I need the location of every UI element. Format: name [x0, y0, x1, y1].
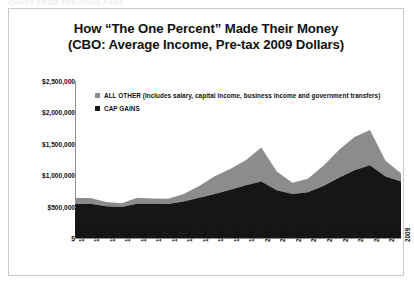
x-axis-tick-label: 2006: [357, 228, 364, 242]
x-axis-tick-label: 2004: [326, 228, 333, 242]
page-bleed-text: CHART FROM PREVIOUS PAGE: [8, 0, 228, 6]
x-axis-tick-label: 1995: [186, 228, 193, 242]
x-axis-tick-label: 2000: [264, 228, 271, 242]
x-axis-tick-label: 2005: [342, 228, 349, 242]
x-axis-tick-label: 1999: [248, 228, 255, 242]
x-axis-labels: 1988198919901991199219931994199519961997…: [9, 9, 405, 277]
x-axis-tick-label: 1994: [171, 228, 178, 242]
x-axis-tick-label: 1998: [233, 228, 240, 242]
plot-area: $2,500,000$2,000,000$1,500,000$1,000,000…: [9, 9, 405, 277]
x-axis-tick-label: 2009: [404, 228, 411, 242]
y-axis-tick-mark: [73, 207, 76, 208]
x-axis-tick-label: 2007: [373, 228, 380, 242]
screenshot-root: CHART FROM PREVIOUS PAGE How “The One Pe…: [0, 0, 414, 286]
y-axis-tick-mark: [73, 175, 76, 176]
y-axis-tick-mark: [73, 81, 76, 82]
x-axis-tick-label: 1991: [124, 228, 131, 242]
x-axis-tick-label: 1997: [217, 228, 224, 242]
x-axis-tick-label: 1988: [78, 228, 85, 242]
x-axis-tick-label: 2008: [388, 228, 395, 242]
x-axis-tick-label: 1992: [140, 228, 147, 242]
chart-frame: How “The One Percent” Made Their Money (…: [8, 8, 404, 276]
x-axis-tick-label: 2003: [310, 228, 317, 242]
y-axis-tick-mark: [73, 238, 76, 239]
x-axis-tick-label: 1996: [202, 228, 209, 242]
x-axis-tick-label: 1990: [109, 228, 116, 242]
x-axis-tick-label: 1993: [155, 228, 162, 242]
x-axis-tick-label: 2002: [295, 228, 302, 242]
y-axis-tick-mark: [73, 144, 76, 145]
x-axis-tick-label: 1989: [93, 228, 100, 242]
y-axis-tick-mark: [73, 112, 76, 113]
x-axis-tick-label: 2001: [279, 228, 286, 242]
